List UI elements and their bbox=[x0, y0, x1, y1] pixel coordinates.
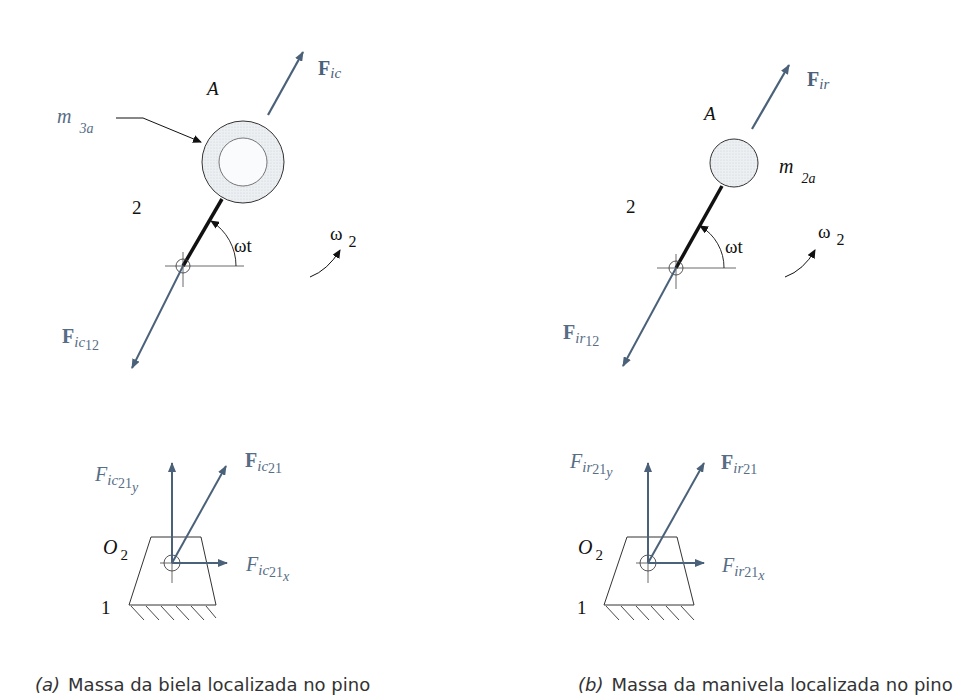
ground-hatching bbox=[131, 606, 216, 620]
pivot-o2-label: O2 bbox=[578, 536, 603, 563]
point-a-label: A bbox=[205, 78, 219, 99]
mass-leader-line bbox=[116, 118, 201, 142]
link-2-label: 2 bbox=[132, 197, 142, 218]
reaction-resultant-arrow bbox=[648, 463, 704, 563]
force-fic-label: Fic bbox=[318, 57, 341, 81]
force-fic-arrow bbox=[268, 52, 303, 115]
pivot-o2-label: O2 bbox=[103, 536, 128, 563]
panel-b: Fir A 2 m2a ωt ω2 Fir12 Fir21y bbox=[563, 65, 953, 695]
mass-m3a-label: m3a bbox=[57, 105, 93, 136]
ground-hatching bbox=[606, 606, 694, 620]
panel-a: Fic A m3a 2 ωt ω2 Fic12 bbox=[35, 52, 370, 695]
reaction-x-label: Fir21x bbox=[721, 554, 765, 583]
reaction-y-label: Fir21y bbox=[569, 450, 613, 480]
point-a-label: A bbox=[702, 103, 716, 124]
inertia-force-diagram: Fic A m3a 2 ωt ω2 Fic12 bbox=[0, 0, 972, 700]
crank-link bbox=[183, 199, 222, 266]
reaction-x-label: Fic21x bbox=[245, 553, 290, 584]
connecting-rod-mass-inner bbox=[219, 138, 267, 186]
force-fir-arrow bbox=[752, 65, 789, 129]
omega-rotation-arrow bbox=[310, 250, 340, 277]
omega-rotation-arrow bbox=[785, 250, 815, 277]
angle-omega-t-label: ωt bbox=[234, 235, 253, 256]
reaction-resultant-arrow bbox=[172, 466, 226, 563]
force-fir12-arrow bbox=[623, 268, 676, 366]
reaction-y-label: Fic21y bbox=[94, 463, 139, 495]
caption-b: (b)Massa da manivela localizada no pino bbox=[578, 674, 953, 695]
force-fic12-label: Fic12 bbox=[62, 325, 99, 353]
force-fir-label: Fir bbox=[807, 68, 829, 92]
reaction-resultant-label: Fic21 bbox=[245, 449, 282, 476]
omega-2-label: ω2 bbox=[818, 221, 845, 248]
force-fir12-label: Fir12 bbox=[563, 321, 599, 349]
reaction-resultant-label: Fir21 bbox=[721, 451, 757, 477]
ground-1-label: 1 bbox=[101, 597, 111, 618]
angle-arc bbox=[700, 226, 724, 268]
link-2-label: 2 bbox=[626, 196, 636, 217]
crank-mass bbox=[710, 139, 758, 187]
mass-m2a-label: m2a bbox=[779, 155, 815, 186]
crank-link bbox=[676, 186, 722, 268]
ground-1-label: 1 bbox=[577, 597, 587, 618]
angle-omega-t-label: ωt bbox=[725, 236, 744, 257]
angle-arc bbox=[211, 221, 236, 266]
force-fic12-arrow bbox=[132, 266, 183, 368]
omega-2-label: ω2 bbox=[330, 223, 357, 250]
caption-a: (a)Massa da biela localizada no pino bbox=[35, 674, 370, 695]
